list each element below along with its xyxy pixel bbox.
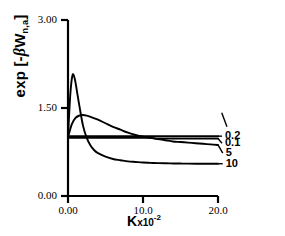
chart-axes — [61, 20, 218, 203]
curve-10 — [68, 74, 218, 164]
chart-figure: exp [-βWn,a] Kx10-2 0.001.503.000.0010.0… — [0, 0, 285, 236]
chart-label-leaders — [218, 113, 227, 164]
curve-0p1 — [68, 138, 218, 139]
leader-5 — [218, 145, 223, 153]
curve-5 — [68, 115, 218, 145]
chart-plot-area — [0, 0, 285, 236]
chart-curves — [68, 74, 218, 164]
leader-cap-stub — [222, 113, 227, 127]
leader-0p1 — [218, 139, 222, 144]
